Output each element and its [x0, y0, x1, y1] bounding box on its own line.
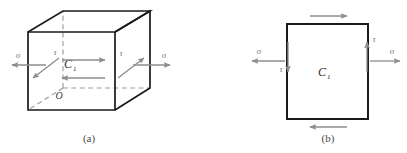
origin-label: O [55, 90, 62, 101]
panel-a-caption: (a) [83, 132, 96, 145]
sigma-left-label: σ [16, 50, 21, 60]
stress-element-figure: O C 1 σ τ σ τ [0, 0, 407, 153]
panel-b-caption: (b) [322, 132, 335, 145]
sigma-right-label: σ [390, 46, 395, 56]
center-label: C [64, 57, 73, 71]
sigma-left-label: σ [257, 46, 262, 56]
center-label: C [318, 65, 327, 79]
figure-background [0, 0, 407, 153]
center-label-subscript: 1 [73, 65, 77, 73]
center-label-subscript: 1 [327, 73, 331, 81]
sigma-right-label: σ [162, 50, 167, 60]
figure-canvas: O C 1 σ τ σ τ [0, 0, 407, 153]
